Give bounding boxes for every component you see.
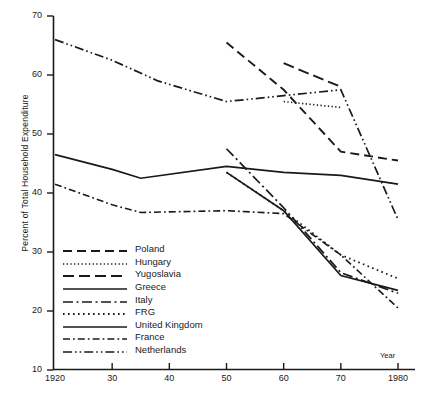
y-tick-label: 60 [16, 69, 42, 79]
legend-key-swatch [62, 306, 128, 318]
series-line-frg [227, 172, 399, 278]
legend-key-swatch [62, 319, 128, 331]
x-tick-label: 30 [92, 373, 132, 383]
chart-legend: PolandHungaryYugoslaviaGreeceItalyFRGUni… [62, 243, 232, 356]
x-tick-label: 60 [264, 373, 304, 383]
series-line-yugoslavia [284, 63, 341, 87]
legend-item: Yugoslavia [62, 268, 232, 281]
legend-label: Greece [128, 281, 166, 293]
legend-item: France [62, 331, 232, 344]
y-tick-label: 30 [16, 246, 42, 256]
legend-item: Italy [62, 293, 232, 306]
legend-key-swatch [62, 256, 128, 268]
legend-label: Italy [128, 294, 152, 306]
legend-label: Yugoslavia [128, 268, 181, 280]
x-tick-label: 1920 [35, 373, 75, 383]
legend-label: FRG [128, 306, 155, 318]
series-line-hungary [284, 102, 341, 108]
series-line-poland [227, 43, 399, 161]
legend-key-swatch [62, 281, 128, 293]
legend-item: Greece [62, 281, 232, 294]
y-tick-label: 40 [16, 187, 42, 197]
legend-key-swatch [62, 294, 128, 306]
x-axis-title: Year [380, 351, 395, 360]
series-line-united-kingdom [55, 155, 398, 185]
x-tick-label: 40 [149, 373, 189, 383]
legend-key-swatch [62, 243, 128, 255]
legend-item: FRG [62, 306, 232, 319]
legend-item: Hungary [62, 256, 232, 269]
x-tick-label: 50 [207, 373, 247, 383]
legend-key-swatch [62, 331, 128, 343]
legend-label: Hungary [128, 256, 171, 268]
legend-label: Netherlands [128, 344, 186, 356]
legend-label: France [128, 331, 165, 343]
x-tick-label: 70 [321, 373, 361, 383]
legend-label: Poland [128, 243, 165, 255]
y-axis-title: Percent of Total Household Expenditure [20, 43, 30, 303]
y-axis-ticks [47, 16, 54, 370]
legend-label: United Kingdom [128, 319, 203, 331]
y-tick-label: 50 [16, 128, 42, 138]
legend-item: Netherlands [62, 344, 232, 357]
legend-item: Poland [62, 243, 232, 256]
series-line-italy [227, 149, 399, 294]
x-tick-label: 1980 [378, 373, 418, 383]
line-chart: Percent of Total Household Expenditure 1… [0, 0, 421, 397]
y-tick-label: 20 [16, 305, 42, 315]
legend-item: United Kingdom [62, 319, 232, 332]
series-line-netherlands [55, 40, 398, 220]
legend-key-swatch [62, 268, 128, 280]
y-tick-label: 70 [16, 10, 42, 20]
legend-key-swatch [62, 344, 128, 356]
